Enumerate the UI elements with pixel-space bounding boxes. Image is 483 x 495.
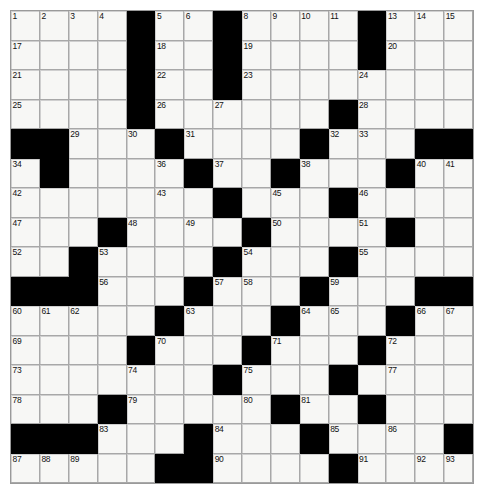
grid-cell[interactable]: 32: [329, 129, 358, 159]
grid-cell[interactable]: [329, 70, 358, 100]
grid-cell[interactable]: [300, 188, 329, 218]
grid-cell[interactable]: [69, 336, 98, 366]
grid-cell[interactable]: [213, 306, 242, 336]
grid-cell[interactable]: [155, 218, 184, 248]
grid-cell[interactable]: 66: [415, 306, 444, 336]
grid-cell[interactable]: [184, 336, 213, 366]
grid-cell[interactable]: [444, 247, 473, 277]
grid-cell[interactable]: 63: [184, 306, 213, 336]
grid-cell[interactable]: [69, 395, 98, 425]
grid-cell[interactable]: 9: [271, 11, 300, 41]
grid-cell[interactable]: 24: [358, 70, 387, 100]
grid-cell[interactable]: 19: [242, 41, 271, 71]
grid-cell[interactable]: [300, 70, 329, 100]
grid-cell[interactable]: [300, 100, 329, 130]
grid-cell[interactable]: 83: [98, 424, 127, 454]
grid-cell[interactable]: [271, 129, 300, 159]
grid-cell[interactable]: [155, 424, 184, 454]
grid-cell[interactable]: [415, 70, 444, 100]
grid-cell[interactable]: 18: [155, 41, 184, 71]
grid-cell[interactable]: 75: [242, 365, 271, 395]
grid-cell[interactable]: [329, 395, 358, 425]
grid-cell[interactable]: [271, 247, 300, 277]
grid-cell[interactable]: 55: [358, 247, 387, 277]
grid-cell[interactable]: 59: [329, 277, 358, 307]
grid-cell[interactable]: [98, 188, 127, 218]
grid-cell[interactable]: 40: [415, 159, 444, 189]
grid-cell[interactable]: [386, 100, 415, 130]
grid-cell[interactable]: 38: [300, 159, 329, 189]
grid-cell[interactable]: [213, 336, 242, 366]
grid-cell[interactable]: 1: [11, 11, 40, 41]
grid-cell[interactable]: [300, 41, 329, 71]
grid-cell[interactable]: 80: [242, 395, 271, 425]
grid-cell[interactable]: [358, 277, 387, 307]
grid-cell[interactable]: [127, 306, 156, 336]
grid-cell[interactable]: [386, 188, 415, 218]
grid-cell[interactable]: 3: [69, 11, 98, 41]
grid-cell[interactable]: 20: [386, 41, 415, 71]
grid-cell[interactable]: 47: [11, 218, 40, 248]
grid-cell[interactable]: [213, 129, 242, 159]
grid-cell[interactable]: 67: [444, 306, 473, 336]
grid-cell[interactable]: [444, 395, 473, 425]
grid-cell[interactable]: [127, 159, 156, 189]
grid-cell[interactable]: [98, 129, 127, 159]
grid-cell[interactable]: [184, 188, 213, 218]
grid-cell[interactable]: 28: [358, 100, 387, 130]
grid-cell[interactable]: [40, 365, 69, 395]
grid-cell[interactable]: 57: [213, 277, 242, 307]
grid-cell[interactable]: 89: [69, 454, 98, 484]
grid-cell[interactable]: [271, 277, 300, 307]
grid-cell[interactable]: 73: [11, 365, 40, 395]
grid-cell[interactable]: [271, 100, 300, 130]
grid-cell[interactable]: [300, 247, 329, 277]
grid-cell[interactable]: [155, 277, 184, 307]
grid-cell[interactable]: [415, 336, 444, 366]
grid-cell[interactable]: 71: [271, 336, 300, 366]
grid-cell[interactable]: [69, 218, 98, 248]
grid-cell[interactable]: [329, 336, 358, 366]
grid-cell[interactable]: [98, 454, 127, 484]
grid-cell[interactable]: 92: [415, 454, 444, 484]
grid-cell[interactable]: 87: [11, 454, 40, 484]
grid-cell[interactable]: 13: [386, 11, 415, 41]
grid-cell[interactable]: [98, 365, 127, 395]
grid-cell[interactable]: 60: [11, 306, 40, 336]
grid-cell[interactable]: [444, 188, 473, 218]
grid-cell[interactable]: [444, 41, 473, 71]
grid-cell[interactable]: [98, 100, 127, 130]
grid-cell[interactable]: 15: [444, 11, 473, 41]
grid-cell[interactable]: [415, 41, 444, 71]
grid-cell[interactable]: [242, 188, 271, 218]
grid-cell[interactable]: [300, 454, 329, 484]
grid-cell[interactable]: [184, 247, 213, 277]
grid-cell[interactable]: 78: [11, 395, 40, 425]
grid-cell[interactable]: 56: [98, 277, 127, 307]
grid-cell[interactable]: [271, 41, 300, 71]
grid-cell[interactable]: [40, 100, 69, 130]
grid-cell[interactable]: [444, 336, 473, 366]
grid-cell[interactable]: 5: [155, 11, 184, 41]
grid-cell[interactable]: [358, 306, 387, 336]
grid-cell[interactable]: [242, 454, 271, 484]
grid-cell[interactable]: [127, 277, 156, 307]
grid-cell[interactable]: [271, 424, 300, 454]
grid-cell[interactable]: 49: [184, 218, 213, 248]
grid-cell[interactable]: 10: [300, 11, 329, 41]
grid-cell[interactable]: 25: [11, 100, 40, 130]
grid-cell[interactable]: [329, 41, 358, 71]
grid-cell[interactable]: [40, 218, 69, 248]
grid-cell[interactable]: 23: [242, 70, 271, 100]
grid-cell[interactable]: [386, 277, 415, 307]
grid-cell[interactable]: 26: [155, 100, 184, 130]
grid-cell[interactable]: 52: [11, 247, 40, 277]
grid-cell[interactable]: [386, 454, 415, 484]
grid-cell[interactable]: 2: [40, 11, 69, 41]
grid-cell[interactable]: 86: [386, 424, 415, 454]
grid-cell[interactable]: 85: [329, 424, 358, 454]
grid-cell[interactable]: [415, 247, 444, 277]
grid-cell[interactable]: [40, 70, 69, 100]
grid-cell[interactable]: [184, 395, 213, 425]
grid-cell[interactable]: [98, 70, 127, 100]
